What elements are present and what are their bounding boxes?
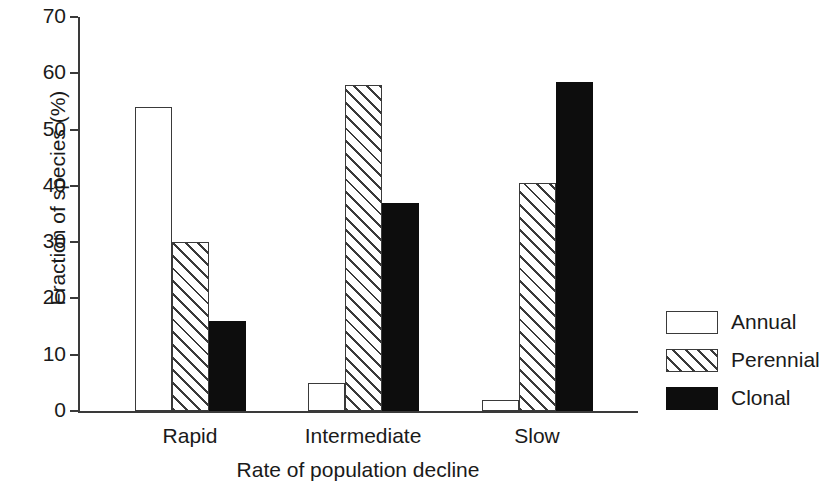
y-tick-label: 0: [2, 399, 66, 420]
bar-slow-perennial: [519, 183, 556, 411]
x-tick-label-rapid: Rapid: [90, 424, 290, 448]
legend-swatch-perennial: [666, 349, 718, 372]
y-tick-mark: [70, 241, 78, 243]
bar-slow-clonal: [556, 82, 593, 411]
legend-item-clonal: Clonal: [666, 379, 824, 417]
y-tick: 50: [0, 129, 78, 131]
bar-intermediate-perennial: [345, 85, 382, 411]
legend-label-perennial: Perennial: [731, 348, 820, 372]
y-tick-mark: [70, 16, 78, 18]
legend-item-perennial: Perennial: [666, 341, 824, 379]
y-tick-mark: [70, 185, 78, 187]
bar-rapid-clonal: [209, 321, 246, 411]
y-tick: 10: [0, 354, 78, 356]
y-tick-label: 70: [2, 5, 66, 26]
y-tick: 20: [0, 297, 78, 299]
legend: AnnualPerennialClonal: [666, 303, 824, 417]
y-tick: 40: [0, 185, 78, 187]
legend-swatch-clonal: [666, 387, 718, 410]
bar-group: [135, 17, 246, 411]
plot-area: [80, 17, 638, 411]
y-tick: 60: [0, 72, 78, 74]
y-tick: 0: [0, 410, 78, 412]
bar-rapid-annual: [135, 107, 172, 411]
y-tick-mark: [70, 354, 78, 356]
bar-intermediate-clonal: [382, 203, 419, 411]
y-tick-mark: [70, 410, 78, 412]
x-tick-label-slow: Slow: [437, 424, 637, 448]
legend-label-annual: Annual: [731, 310, 796, 334]
y-tick-label: 20: [2, 286, 66, 307]
bar-chart-figure: Fraction of species (%) 010203040506070 …: [0, 0, 824, 490]
bar-group: [308, 17, 419, 411]
y-tick-label: 30: [2, 230, 66, 251]
bar-rapid-perennial: [172, 242, 209, 411]
bar-slow-annual: [482, 400, 519, 411]
y-tick-mark: [70, 129, 78, 131]
y-tick: 30: [0, 241, 78, 243]
y-tick-label: 50: [2, 118, 66, 139]
x-tick-label-intermediate: Intermediate: [263, 424, 463, 448]
y-tick-label: 60: [2, 61, 66, 82]
y-tick-label: 10: [2, 343, 66, 364]
legend-swatch-annual: [666, 311, 718, 334]
y-tick-mark: [70, 72, 78, 74]
x-axis-title: Rate of population decline: [78, 458, 638, 482]
bar-group: [482, 17, 593, 411]
legend-label-clonal: Clonal: [731, 386, 791, 410]
legend-item-annual: Annual: [666, 303, 824, 341]
bar-intermediate-annual: [308, 383, 345, 411]
y-tick: 70: [0, 16, 78, 18]
y-tick-label: 40: [2, 174, 66, 195]
x-axis-line: [78, 411, 638, 413]
y-tick-mark: [70, 297, 78, 299]
